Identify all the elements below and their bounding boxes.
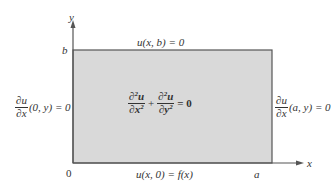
superscript: 2 [140, 103, 144, 111]
right-bc-derivative: ∂u ∂x [275, 95, 288, 119]
x-axis-arrow-icon [296, 161, 304, 166]
d2u-dx2: ∂2u ∂x2 [128, 91, 145, 115]
d2u-dx2-den: ∂x2 [128, 104, 144, 116]
right-bc-rest: (a, y) = 0 [289, 101, 331, 113]
laplace-equation: ∂2u ∂x2 + ∂2u ∂y2 = 0 [128, 91, 192, 115]
a-label: a [254, 169, 260, 180]
top-boundary-condition: u(x, b) = 0 [137, 37, 184, 48]
b-label: b [62, 45, 68, 56]
right-boundary-condition: ∂u ∂x (a, y) = 0 [275, 95, 331, 119]
d2u-dy2-den: ∂y2 [158, 104, 174, 116]
equals-zero: = 0 [177, 97, 192, 109]
right-bc-den: ∂x [275, 108, 287, 120]
bottom-boundary-condition: u(x, 0) = f(x) [136, 169, 193, 180]
var-dy: ∂y [159, 103, 169, 115]
x-axis-label: x [307, 158, 312, 169]
plus-sign: + [148, 97, 154, 109]
var-u: u [138, 90, 144, 102]
left-bc-den: ∂x [15, 108, 27, 120]
superscript: 2 [169, 103, 173, 111]
left-boundary-condition: ∂u ∂x (0, y) = 0 [15, 95, 71, 119]
var-dx: ∂x [129, 103, 140, 115]
left-bc-derivative: ∂u ∂x [15, 95, 28, 119]
var-u: u [167, 90, 173, 102]
left-bc-rest: (0, y) = 0 [29, 101, 71, 113]
d2u-dy2: ∂2u ∂y2 [157, 91, 174, 115]
origin-label: 0 [66, 168, 72, 179]
y-axis-label: y [69, 12, 74, 23]
left-bc-num: ∂u [15, 95, 28, 108]
right-bc-num: ∂u [275, 95, 288, 108]
